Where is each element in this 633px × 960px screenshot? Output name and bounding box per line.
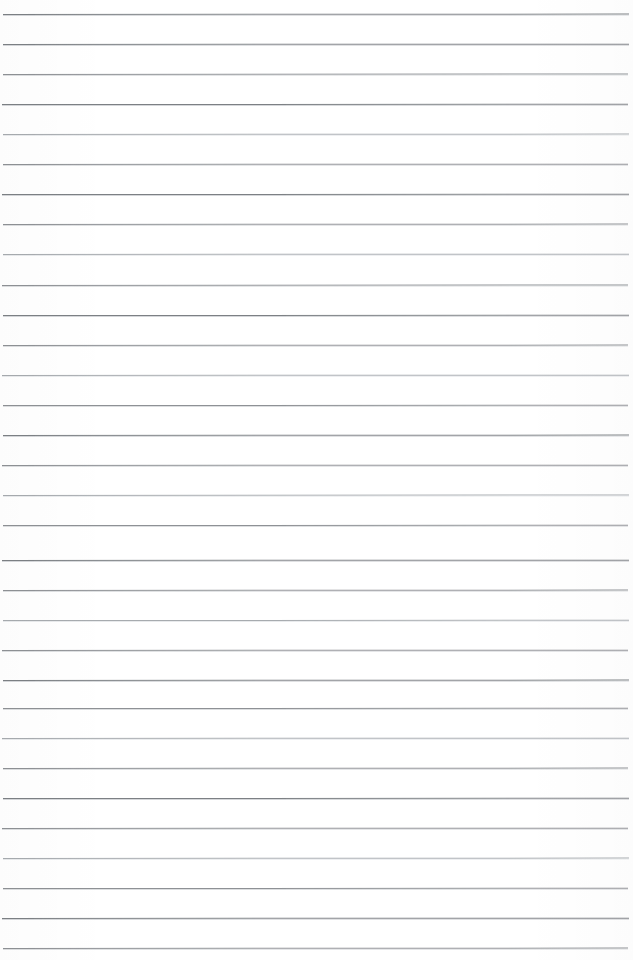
- rule-line: [3, 134, 629, 135]
- rule-line: [3, 254, 629, 255]
- rule-line: [3, 345, 628, 346]
- rule-line: [3, 315, 629, 316]
- rule-line: [2, 828, 628, 829]
- rule-line: [2, 918, 629, 919]
- rule-line: [3, 525, 628, 526]
- rule-line: [3, 798, 629, 799]
- rule-line: [3, 708, 628, 709]
- scanned-page: [0, 0, 633, 960]
- rule-line: [3, 888, 628, 889]
- rule-line: [2, 738, 629, 739]
- rule-line: [3, 494, 629, 496]
- paper-grain-overlay: [0, 0, 633, 960]
- rule-line: [3, 164, 628, 165]
- rule-line: [2, 104, 628, 105]
- rule-line: [3, 14, 629, 15]
- rule-line: [3, 768, 628, 769]
- rule-line: [2, 375, 629, 376]
- rule-line: [3, 224, 628, 225]
- rule-line: [3, 405, 628, 406]
- rule-line: [3, 680, 629, 681]
- rule-line: [3, 590, 628, 591]
- rule-line: [3, 435, 629, 436]
- rule-line: [3, 44, 629, 45]
- rule-line: [3, 948, 628, 949]
- rule-line: [2, 284, 628, 286]
- rule-line: [2, 194, 629, 195]
- rule-line: [3, 73, 628, 75]
- rule-line: [2, 465, 628, 466]
- rule-line: [2, 650, 628, 651]
- rule-line: [3, 858, 629, 859]
- rule-line: [2, 560, 629, 561]
- rule-line: [3, 620, 629, 621]
